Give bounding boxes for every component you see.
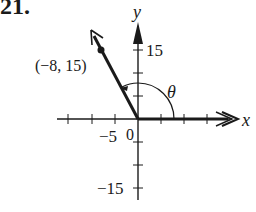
coordinate-diagram bbox=[0, 0, 256, 212]
x-axis-label: x bbox=[242, 111, 250, 129]
angle-theta-label: θ bbox=[167, 83, 176, 101]
terminal-point bbox=[98, 47, 105, 54]
y-tick-label-neg15: −15 bbox=[97, 180, 124, 197]
y-axis-label: y bbox=[133, 3, 141, 21]
point-label: (−8, 15) bbox=[35, 58, 87, 74]
x-axis bbox=[57, 112, 238, 126]
origin-label: 0 bbox=[126, 127, 134, 143]
x-tick-label-neg5: −5 bbox=[99, 128, 117, 145]
terminal-side-ray bbox=[91, 30, 138, 119]
y-tick-label-15: 15 bbox=[146, 42, 163, 59]
